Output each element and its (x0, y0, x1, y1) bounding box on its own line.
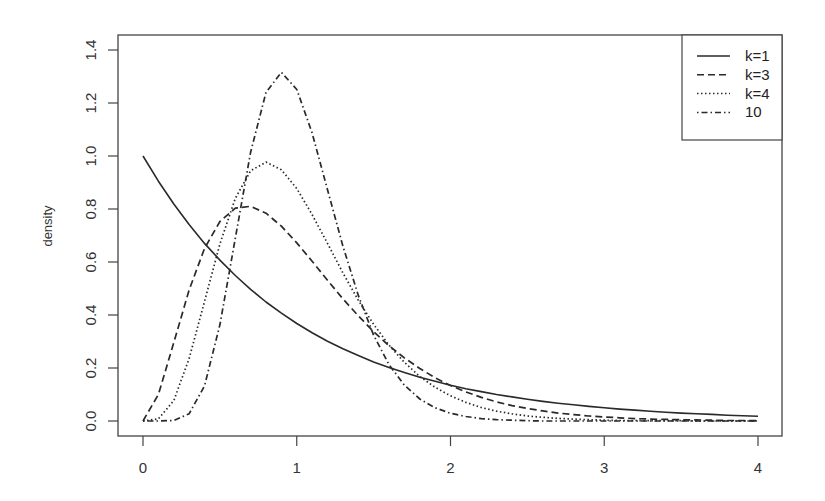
y-tick-label: 0.4 (82, 305, 99, 326)
x-tick-label: 3 (600, 459, 608, 476)
x-tick-label: 2 (446, 459, 454, 476)
density-chart: 0.00.20.40.60.81.01.21.4 density 01234 k… (0, 0, 825, 501)
y-axis-label: density (40, 205, 55, 247)
legend: k=1k=3k=410 (682, 35, 782, 140)
y-tick-label: 1.0 (82, 146, 99, 167)
y-tick-label: 0.8 (82, 199, 99, 220)
x-tick-label: 1 (293, 459, 301, 476)
legend-label: 10 (745, 103, 762, 120)
y-tick-label: 0.0 (82, 411, 99, 432)
x-tick-label: 0 (139, 459, 147, 476)
y-tick-label: 0.6 (82, 252, 99, 273)
x-tick-label: 4 (754, 459, 762, 476)
legend-label: k=4 (745, 85, 770, 102)
legend-label: k=1 (745, 47, 770, 64)
y-tick-label: 1.2 (82, 93, 99, 114)
y-tick-label: 1.4 (82, 40, 99, 61)
legend-label: k=3 (745, 66, 770, 83)
y-tick-label: 0.2 (82, 358, 99, 379)
